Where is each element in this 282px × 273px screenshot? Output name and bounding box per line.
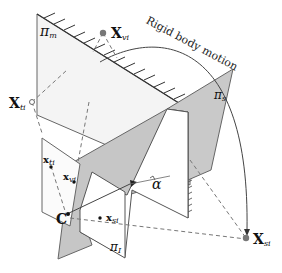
stereo-plane-label: πs xyxy=(214,89,226,103)
mirror-plane-label: πm xyxy=(40,24,57,40)
diagram-canvas xyxy=(0,0,282,273)
label-camera-center: C xyxy=(56,212,67,226)
label-X-si: Xsi xyxy=(253,232,271,248)
label-angle-alpha: α xyxy=(152,177,161,191)
image-plane-label: πI xyxy=(110,241,121,255)
diagram-figure: Rigid body motion πm πs πI Xvi Xti Xsi x… xyxy=(0,0,282,273)
label-x-vi: xvi xyxy=(63,172,76,184)
point-X-vi xyxy=(100,30,106,36)
label-x-ti: xti xyxy=(43,155,55,167)
label-X-ti: Xti xyxy=(9,96,26,112)
label-x-si: xsi xyxy=(106,213,119,225)
label-X-vi: Xvi xyxy=(111,26,129,42)
arc-arrowhead xyxy=(244,229,250,236)
point-X-si xyxy=(243,235,249,241)
point-X-ti xyxy=(30,100,35,105)
point-x-si xyxy=(98,216,101,219)
